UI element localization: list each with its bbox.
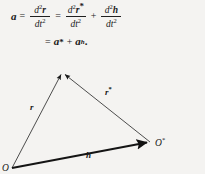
vector-triangle-diagram: r r* h O O*	[0, 56, 205, 174]
fraction-d2rstar-dt2: d2r* dt2	[64, 3, 88, 30]
exponent-2: 2	[42, 17, 45, 24]
point-O-label: O	[2, 163, 9, 173]
star-superscript: *	[109, 85, 112, 92]
equals-sign-2: =	[52, 11, 64, 21]
star-superscript: *	[79, 1, 84, 11]
equation-block: a = d2r dt2 = d2r* dt2 + d2h dt2 =	[0, 0, 205, 58]
vector-r-star-label: r*	[105, 87, 112, 97]
plus-sign: +	[64, 37, 76, 47]
fraction-denominator: dt2	[69, 17, 82, 29]
fraction-d2h-dt2: d2h dt2	[99, 3, 123, 30]
vector-r-label: r	[30, 102, 34, 112]
fraction-numerator: d2h	[104, 3, 119, 15]
fraction-denominator: dt2	[105, 17, 118, 29]
point-O-star-label: O*	[155, 138, 165, 148]
equals-sign-3: =	[42, 37, 54, 47]
vector-h-label: h	[86, 150, 91, 160]
vector-r-line	[12, 75, 61, 169]
equation-line-2: = a* + ah.	[42, 36, 87, 47]
exponent-2: 2	[78, 17, 81, 24]
star-superscript: *	[162, 136, 165, 143]
fraction-numerator: d2r*	[67, 3, 85, 15]
period: .	[85, 36, 88, 47]
point-O-star-letter: O	[155, 138, 162, 148]
fraction-numerator: d2r	[33, 3, 47, 15]
plus-sign: +	[88, 11, 100, 21]
vector-a-h-symbol: a	[75, 36, 81, 47]
vector-h-symbol: h	[113, 5, 118, 15]
diagram-svg	[0, 56, 205, 174]
vector-r-symbol: r	[42, 5, 46, 15]
dt-symbol: dt	[70, 20, 77, 30]
fraction-denominator: dt2	[34, 17, 47, 29]
vector-h-line	[12, 143, 147, 169]
exponent-2: 2	[113, 17, 116, 24]
fraction-d2r-dt2: d2r dt2	[28, 3, 52, 30]
equation-line-1: a = d2r dt2 = d2r* dt2 + d2h dt2	[11, 3, 123, 30]
figure-page: a = d2r dt2 = d2r* dt2 + d2h dt2 =	[0, 0, 205, 174]
vector-r-star-line	[65, 75, 150, 143]
equals-sign-1: =	[17, 11, 29, 21]
